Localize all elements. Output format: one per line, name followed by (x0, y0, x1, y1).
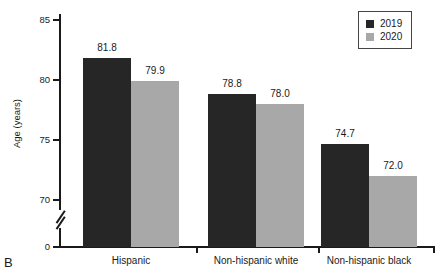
bar-2020-non-hispanic-black[interactable] (369, 176, 417, 247)
y-tick-70 (53, 199, 60, 201)
legend-item-2019[interactable]: 2019 (366, 17, 402, 30)
y-tick-85 (53, 19, 60, 21)
y-axis-title: Age (years) (11, 89, 22, 159)
legend-label-2019: 2019 (380, 19, 402, 29)
bar-value-label: 78.0 (270, 89, 289, 99)
y-tick-80 (53, 79, 60, 81)
y-tick-label-75: 75 (4, 135, 50, 145)
legend-swatch-2020 (366, 33, 374, 41)
legend-swatch-2019 (366, 20, 374, 28)
bar-2020-hispanic[interactable] (131, 81, 179, 247)
bar-value-label: 79.9 (145, 66, 164, 76)
x-category-label: Non-hispanic black (327, 256, 412, 266)
bar-value-label: 78.8 (222, 79, 241, 89)
x-category-label: Hispanic (112, 256, 150, 266)
legend: 2019 2020 (358, 11, 412, 49)
y-tick-75 (53, 139, 60, 141)
x-tick-1 (318, 246, 320, 253)
legend-item-2020[interactable]: 2020 (366, 30, 402, 43)
x-axis-end-tick (433, 246, 435, 253)
bar-value-label: 72.0 (383, 161, 402, 171)
bar-2019-non-hispanic-white[interactable] (208, 94, 256, 247)
y-tick-label-80: 80 (4, 75, 50, 85)
y-tick-0 (53, 246, 60, 248)
bar-2019-non-hispanic-black[interactable] (321, 144, 369, 247)
legend-label-2020: 2020 (380, 32, 402, 42)
bar-2020-non-hispanic-white[interactable] (256, 104, 304, 247)
bar-value-label: 81.8 (97, 43, 116, 53)
bar-value-label: 74.7 (335, 129, 354, 139)
axis-break-icon (52, 207, 68, 231)
bar-2019-hispanic[interactable] (83, 58, 131, 247)
x-tick-0 (196, 246, 198, 253)
y-tick-label-70: 70 (4, 195, 50, 205)
x-category-label: Non-hispanic white (214, 256, 299, 266)
panel-label: B (4, 256, 13, 269)
bar-chart-figure: B Age (years) 858075700 81.879.978.878.0… (0, 0, 442, 279)
y-tick-label-85: 85 (4, 15, 50, 25)
y-tick-label-0: 0 (4, 242, 50, 252)
